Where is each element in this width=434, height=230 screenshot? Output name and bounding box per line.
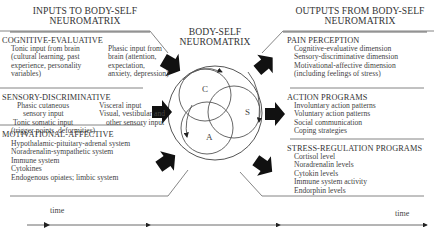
cognitive-tonic-input: Tonic input from brain (cultural learnin… (11, 45, 81, 79)
timeline-left-label: time (50, 207, 64, 215)
arrow-action-out (265, 102, 285, 126)
list-item: variables) (11, 70, 81, 78)
motivational-affective-heading: MOTIVATIONAL-AFFECTIVE (2, 130, 114, 139)
output-arrows (249, 48, 285, 181)
pain-perception-items: Cognitive-evaluative dimension Sensory-d… (294, 45, 398, 79)
list-item: anxiety, depression) (108, 70, 169, 78)
stress-regulation-items: Cortisol level Noradrenalin levels Cytok… (294, 153, 367, 195)
sensory-col2: Visceral input Visual, vestibular and ot… (99, 102, 165, 127)
timeline-start-arrow (44, 222, 50, 228)
action-programs-items: Involuntary action patterns Voluntary ac… (294, 102, 376, 136)
circle-a (181, 102, 233, 154)
neuromatrix-title: BODY-SELF NEUROMATRIX (170, 27, 260, 47)
circle-label-a: A (206, 132, 213, 142)
arrow-motivational-in (152, 145, 182, 176)
circle-s (208, 86, 260, 138)
list-item: (including feelings of stress) (294, 70, 398, 78)
motivational-items: Hypothalamic-pituitary-adrenal system No… (11, 140, 130, 182)
arrow-stress-out (249, 150, 279, 181)
cognitive-phasic-input: Phasic input from brain (attention, expe… (108, 45, 169, 79)
neuromatrix-title-line2: NEUROMATRIX (170, 37, 260, 47)
curved-arrow-c (183, 68, 222, 80)
list-item: Endorphin levels (294, 187, 367, 195)
inputs-title: INPUTS TO BODY-SELF NEUROMATRIX (30, 6, 140, 26)
outputs-title-line2: NEUROMATRIX (290, 16, 430, 26)
inputs-title-line2: NEUROMATRIX (30, 16, 140, 26)
curved-arrow-a (186, 105, 192, 137)
outputs-title: OUTPUTS FROM BODY-SELF NEUROMATRIX (290, 6, 430, 26)
circle-label-c: C (202, 84, 208, 94)
list-item: Coping strategies (294, 127, 376, 135)
list-item: other sensory input (99, 119, 165, 127)
timeline-right-label: time (395, 210, 409, 218)
arrow-pain-out (250, 48, 281, 79)
circle-label-s: S (245, 107, 250, 117)
list-item: Endogenous opiates; limbic system (11, 174, 130, 182)
